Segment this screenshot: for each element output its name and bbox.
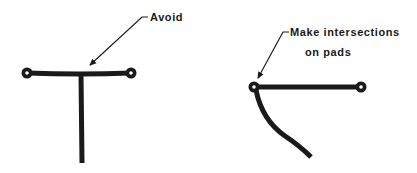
avoid-arrow: [90, 17, 148, 65]
vertical-trace: [81, 74, 82, 163]
pad-left-hole: [25, 71, 29, 75]
diagram-canvas: Avoid Make intersections on pads: [0, 0, 417, 173]
pad-junction-hole: [252, 85, 256, 89]
intersections-label-line2: on pads: [305, 46, 351, 58]
avoid-figure: [22, 17, 149, 163]
horizontal-trace: [27, 73, 131, 74]
pad-end-hole: [359, 85, 363, 89]
pad-right-hole: [129, 71, 133, 75]
pads-arrow: [258, 32, 289, 78]
curved-trace: [256, 90, 311, 157]
intersections-label-line1: Make intersections: [290, 26, 400, 38]
avoid-label: Avoid: [150, 11, 183, 23]
